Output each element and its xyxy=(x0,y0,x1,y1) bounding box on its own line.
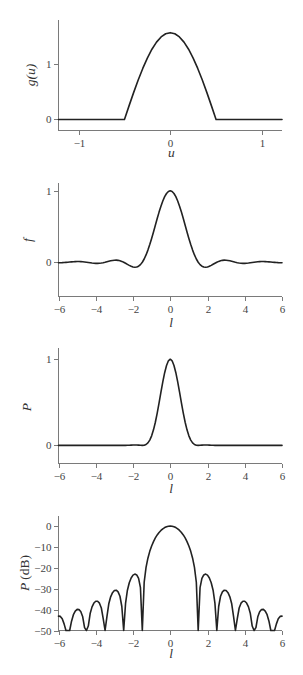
y-tick-label: 1 xyxy=(46,58,52,70)
x-tick-label: −6 xyxy=(54,637,66,649)
y-axis-label: P(dB) xyxy=(17,555,32,592)
x-tick-label: 2 xyxy=(206,470,212,482)
y-tick-label: 1 xyxy=(46,353,52,365)
x-tick-label: 4 xyxy=(243,303,249,315)
y-axis-label-unit: (dB) xyxy=(17,555,32,580)
x-axis-label: l xyxy=(169,646,173,661)
y-axis-label-variable: f xyxy=(20,236,35,242)
x-axis-label: u xyxy=(168,145,175,160)
y-axis-label: P xyxy=(19,403,34,412)
y-tick-label: −40 xyxy=(34,604,52,616)
x-tick-label: −2 xyxy=(128,303,140,315)
y-tick-label: 0 xyxy=(46,113,52,125)
x-tick-label: −2 xyxy=(128,470,140,482)
y-tick-label: −10 xyxy=(34,541,52,553)
x-tick-label: 6 xyxy=(280,470,286,482)
y-tick-label: −30 xyxy=(34,583,52,595)
data-curve xyxy=(59,191,283,267)
y-tick-label: 0 xyxy=(46,256,52,268)
x-tick-label: 4 xyxy=(243,470,249,482)
panel-field-f: 01−6−4−20246lf xyxy=(20,183,286,330)
y-axis-label: g(u) xyxy=(23,63,38,86)
y-axis-label: f xyxy=(20,236,35,242)
y-tick-label: −20 xyxy=(34,562,52,574)
x-tick-label: −4 xyxy=(91,470,103,482)
y-tick-label: −50 xyxy=(34,625,52,637)
y-axis-label-variable: P xyxy=(19,403,34,412)
x-tick-label: 2 xyxy=(206,303,212,315)
x-tick-label: 6 xyxy=(280,637,286,649)
x-axis-label: l xyxy=(169,315,173,330)
x-tick-label: −4 xyxy=(91,303,103,315)
y-axis-label-variable: P xyxy=(17,583,32,592)
x-tick-label: 4 xyxy=(243,637,249,649)
x-tick-label: 1 xyxy=(260,137,266,149)
x-tick-label: 6 xyxy=(280,303,286,315)
y-tick-label: 1 xyxy=(46,185,52,197)
y-tick-label: 0 xyxy=(46,520,52,532)
data-curve xyxy=(59,33,283,120)
x-tick-label: −6 xyxy=(54,303,66,315)
panel-aperture-g: 01−101ug(u) xyxy=(23,20,282,160)
data-curve xyxy=(59,526,283,630)
x-axis-label: l xyxy=(169,481,173,496)
x-tick-label: −2 xyxy=(128,637,140,649)
y-tick-label: 0 xyxy=(46,439,52,451)
figure: 01−101ug(u)01−6−4−20246lf01−6−4−20246lP0… xyxy=(0,0,303,675)
panel-power-db: 0−10−20−30−40−50−6−4−20246lP(dB) xyxy=(17,516,286,661)
x-tick-label: −6 xyxy=(54,470,66,482)
x-tick-label: 2 xyxy=(206,637,212,649)
panel-power-p: 01−6−4−20246lP xyxy=(19,348,286,496)
x-tick-label: −1 xyxy=(74,137,86,149)
data-curve xyxy=(59,359,283,445)
x-tick-label: 0 xyxy=(168,303,174,315)
y-axis-label-variable: g(u) xyxy=(23,63,38,86)
x-tick-label: −4 xyxy=(91,637,103,649)
